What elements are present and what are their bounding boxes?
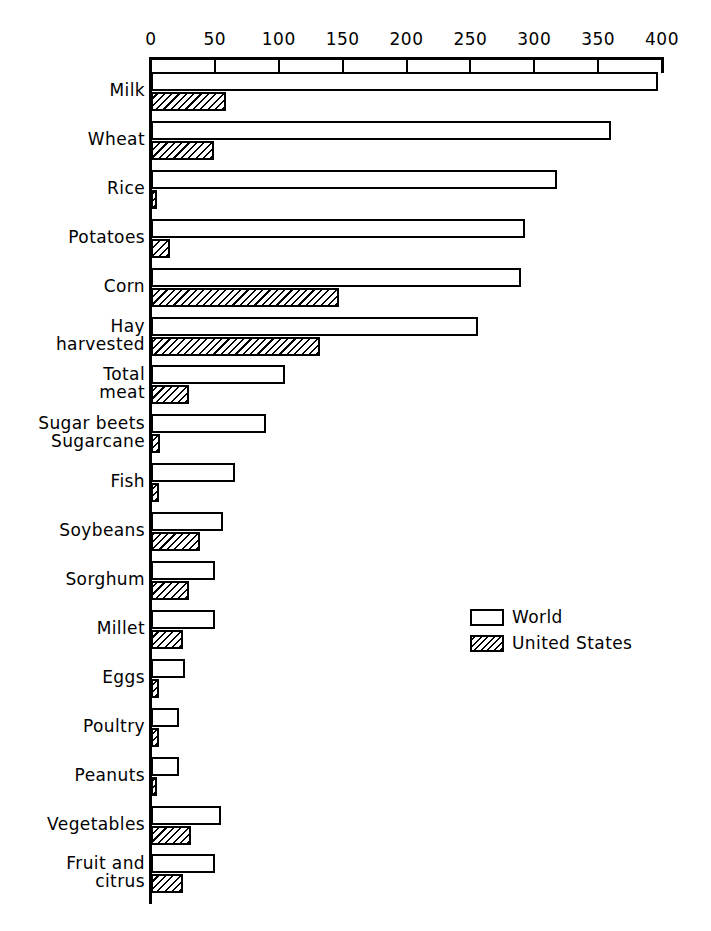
category-label: Poultry: [83, 717, 145, 735]
bar-united-states: [151, 288, 339, 307]
category-label: Fruit and citrus: [66, 854, 145, 890]
category-label: Hay harvested: [56, 317, 145, 353]
category-label: Millet: [97, 619, 145, 637]
bar-world: [151, 757, 179, 776]
bar-united-states: [151, 874, 183, 893]
x-axis-tick: [406, 60, 408, 72]
category-label: Potatoes: [68, 228, 145, 246]
x-axis-tick-label: 100: [262, 29, 296, 49]
x-axis-tick: [597, 60, 599, 72]
x-axis-right-cap: [661, 57, 664, 73]
category-group: Hay harvested: [0, 317, 711, 366]
bar-united-states: [151, 434, 160, 453]
legend-label-world: World: [512, 607, 563, 627]
bar-united-states: [151, 337, 320, 356]
category-label: Wheat: [88, 130, 145, 148]
category-group: Peanuts: [0, 757, 711, 806]
x-axis-tick: [214, 60, 216, 72]
legend-label-united-states: United States: [512, 633, 632, 653]
bar-united-states: [151, 728, 159, 747]
category-group: Corn: [0, 268, 711, 317]
bar-world: [151, 268, 521, 287]
open-box-icon: [470, 609, 504, 626]
legend-item-united-states: United States: [470, 630, 632, 656]
hatched-box-icon: [470, 635, 504, 652]
bar-world: [151, 512, 223, 531]
category-group: Poultry: [0, 708, 711, 757]
x-axis-tick: [342, 60, 344, 72]
bar-world: [151, 463, 235, 482]
bar-world: [151, 72, 658, 91]
category-group: Total meat: [0, 365, 711, 414]
category-label: Sugar beets Sugarcane: [38, 414, 145, 450]
bar-world: [151, 414, 266, 433]
bar-united-states: [151, 532, 200, 551]
bar-united-states: [151, 630, 183, 649]
category-label: Soybeans: [59, 521, 145, 539]
bar-chart: 050100150200250300350400 MilkWheatRicePo…: [0, 0, 711, 931]
x-axis-tick-label: 250: [453, 29, 487, 49]
bar-united-states: [151, 483, 159, 502]
category-group: Vegetables: [0, 806, 711, 855]
legend: World United States: [470, 604, 632, 656]
category-label: Vegetables: [47, 815, 145, 833]
bar-world: [151, 659, 185, 678]
bar-world: [151, 854, 215, 873]
bar-world: [151, 219, 525, 238]
bar-united-states: [151, 385, 189, 404]
category-group: Wheat: [0, 121, 711, 170]
legend-item-world: World: [470, 604, 632, 630]
category-label: Fish: [111, 472, 146, 490]
bar-united-states: [151, 777, 157, 796]
bar-united-states: [151, 239, 170, 258]
bar-world: [151, 317, 478, 336]
category-group: Potatoes: [0, 219, 711, 268]
category-group: Soybeans: [0, 512, 711, 561]
category-group: Fruit and citrus: [0, 854, 711, 903]
x-axis-tick: [533, 60, 535, 72]
category-label: Sorghum: [65, 570, 145, 588]
bar-united-states: [151, 92, 226, 111]
category-group: Fish: [0, 463, 711, 512]
bar-world: [151, 708, 179, 727]
category-label: Rice: [107, 179, 145, 197]
bar-united-states: [151, 581, 189, 600]
category-label: Milk: [109, 81, 145, 99]
bar-world: [151, 365, 285, 384]
bar-world: [151, 610, 215, 629]
x-axis-tick-label: 0: [145, 29, 156, 49]
category-label: Corn: [104, 277, 145, 295]
category-group: Rice: [0, 170, 711, 219]
category-group: Sorghum: [0, 561, 711, 610]
x-axis-tick: [469, 60, 471, 72]
bar-united-states: [151, 826, 191, 845]
x-axis-tick-label: 200: [390, 29, 424, 49]
x-axis-tick-label: 50: [204, 29, 227, 49]
bar-world: [151, 561, 215, 580]
category-group: Sugar beets Sugarcane: [0, 414, 711, 463]
x-axis-tick-label: 400: [645, 29, 679, 49]
bar-world: [151, 806, 221, 825]
x-axis-tick-label: 150: [326, 29, 360, 49]
x-axis-tick: [278, 60, 280, 72]
bar-world: [151, 121, 611, 140]
category-label: Total meat: [99, 365, 145, 401]
bar-united-states: [151, 679, 159, 698]
bar-world: [151, 170, 557, 189]
bar-united-states: [151, 141, 214, 160]
bar-united-states: [151, 190, 157, 209]
x-axis-tick-label: 350: [581, 29, 615, 49]
category-group: Eggs: [0, 659, 711, 708]
x-axis-tick-label: 300: [517, 29, 551, 49]
category-label: Eggs: [102, 668, 145, 686]
category-group: Milk: [0, 72, 711, 121]
category-label: Peanuts: [75, 766, 145, 784]
